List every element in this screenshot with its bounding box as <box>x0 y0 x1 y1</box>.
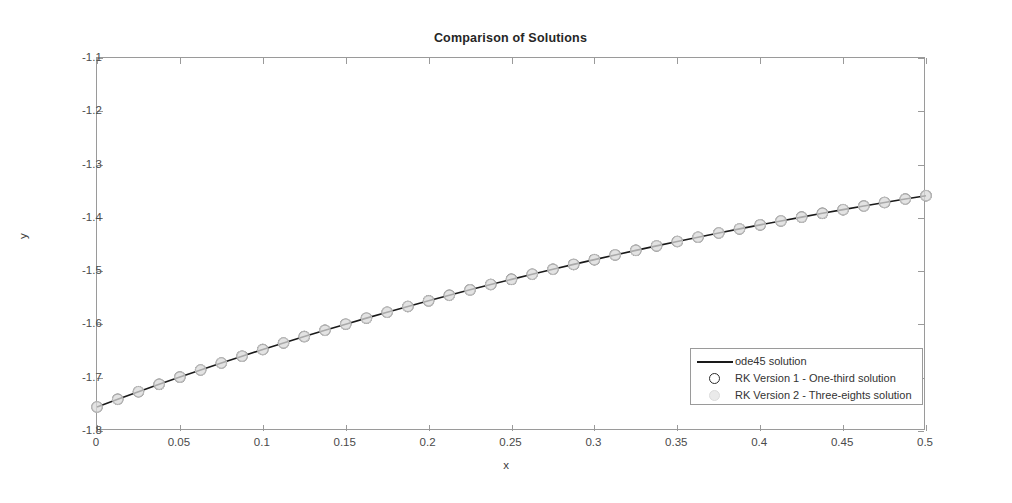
y-tick-right <box>918 165 924 166</box>
data-point <box>257 344 268 355</box>
page-title: Comparison of Solutions <box>96 31 925 45</box>
data-point <box>755 219 766 230</box>
data-point <box>589 254 600 265</box>
y-tick-right <box>918 431 924 432</box>
data-point <box>527 269 538 280</box>
data-point <box>361 313 372 324</box>
x-tick-top <box>429 58 430 64</box>
legend: ode45 solution RK Version 1 - One-third … <box>690 348 923 405</box>
x-tick <box>677 425 678 431</box>
figure-canvas: Comparison of Solutions x y ode45 soluti… <box>0 0 1012 503</box>
x-tick-label: 0.1 <box>254 436 270 448</box>
data-point <box>879 197 890 208</box>
y-axis-label: y <box>17 233 29 239</box>
data-point <box>713 228 724 239</box>
data-point <box>382 307 393 318</box>
x-tick-top <box>843 58 844 64</box>
x-tick <box>843 425 844 431</box>
x-tick <box>346 425 347 431</box>
x-tick-top <box>677 58 678 64</box>
x-tick-label: 0.35 <box>665 436 687 448</box>
data-point <box>921 190 932 201</box>
y-tick-right <box>918 111 924 112</box>
data-point <box>858 201 869 212</box>
legend-key-circle-open-icon <box>695 370 735 387</box>
data-point <box>776 216 787 227</box>
data-point <box>465 284 476 295</box>
data-point <box>672 236 683 247</box>
data-point <box>485 279 496 290</box>
data-point <box>817 208 828 219</box>
x-tick-label: 0.05 <box>168 436 190 448</box>
legend-label: RK Version 2 - Three-eights solution <box>735 387 912 404</box>
data-point <box>237 351 248 362</box>
x-tick-top <box>594 58 595 64</box>
data-point <box>796 212 807 223</box>
data-point <box>568 259 579 270</box>
data-point <box>320 325 331 336</box>
x-tick-label: 0.15 <box>333 436 355 448</box>
legend-item-rk-version-1: RK Version 1 - One-third solution <box>691 370 922 387</box>
data-point <box>278 338 289 349</box>
x-tick <box>429 425 430 431</box>
data-point <box>548 264 559 275</box>
y-tick-right <box>918 271 924 272</box>
x-tick <box>263 425 264 431</box>
x-tick-top <box>926 58 927 64</box>
x-tick-top <box>346 58 347 64</box>
x-tick-top <box>760 58 761 64</box>
x-axis-label: x <box>0 459 1012 471</box>
x-tick-label: 0.25 <box>499 436 521 448</box>
legend-label: ode45 solution <box>735 353 807 370</box>
x-tick <box>594 425 595 431</box>
x-tick-label: 0.45 <box>831 436 853 448</box>
x-tick-label: 0.5 <box>917 436 933 448</box>
x-tick-label: 0.4 <box>751 436 767 448</box>
data-point <box>444 290 455 301</box>
data-point <box>900 194 911 205</box>
x-tick-label: 0.2 <box>420 436 436 448</box>
data-point <box>112 394 123 405</box>
y-tick-right <box>918 58 924 59</box>
data-point <box>92 402 103 413</box>
data-point <box>423 295 434 306</box>
data-point <box>216 358 227 369</box>
y-tick-right <box>918 324 924 325</box>
legend-key-circle-filled-icon <box>695 387 735 404</box>
x-tick <box>512 425 513 431</box>
data-point <box>651 240 662 251</box>
data-point <box>299 331 310 342</box>
data-point <box>693 232 704 243</box>
x-tick <box>926 425 927 431</box>
data-point <box>340 319 351 330</box>
data-point <box>133 386 144 397</box>
data-point <box>630 245 641 256</box>
data-point <box>610 250 621 261</box>
legend-item-ode45: ode45 solution <box>691 353 922 370</box>
x-tick-top <box>180 58 181 64</box>
data-point <box>838 204 849 215</box>
data-point <box>195 365 206 376</box>
x-tick-top <box>263 58 264 64</box>
data-point <box>734 223 745 234</box>
x-tick-label: 0 <box>93 436 99 448</box>
y-tick-right <box>918 218 924 219</box>
data-point <box>402 301 413 312</box>
legend-item-rk-version-2: RK Version 2 - Three-eights solution <box>691 387 922 404</box>
x-tick <box>760 425 761 431</box>
data-point <box>154 379 165 390</box>
legend-label: RK Version 1 - One-third solution <box>735 370 896 387</box>
x-tick-top <box>512 58 513 64</box>
data-point <box>175 372 186 383</box>
x-tick <box>180 425 181 431</box>
x-tick-label: 0.3 <box>585 436 601 448</box>
data-point <box>506 274 517 285</box>
legend-key-line <box>695 353 735 370</box>
